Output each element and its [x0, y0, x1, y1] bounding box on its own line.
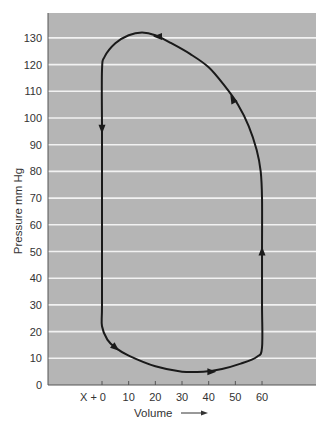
y-tick-label: 90 [30, 139, 42, 151]
right-arrow-icon [181, 411, 208, 416]
y-tick-label: 120 [24, 59, 42, 71]
x-tick-label: 30 [176, 391, 188, 403]
y-tick-label: 110 [24, 85, 42, 97]
y-tick-label: 100 [24, 112, 42, 124]
y-tick-label: 130 [24, 32, 42, 44]
y-tick-label: 40 [30, 272, 42, 284]
y-tick-label: 70 [30, 192, 42, 204]
y-tick-label: 80 [30, 165, 42, 177]
y-tick-labels: 0102030405060708090100110120130 [24, 32, 42, 391]
x-tick-label: 40 [203, 391, 215, 403]
y-tick-label: 60 [30, 219, 42, 231]
y-tick-label: 10 [30, 352, 42, 364]
y-tick-label: 50 [30, 246, 42, 258]
pressure-volume-chart: 0102030405060708090100110120130 X + 0102… [0, 0, 329, 425]
y-tick-label: 30 [30, 299, 42, 311]
y-tick-label: 20 [30, 326, 42, 338]
x-tick-label: 20 [149, 391, 161, 403]
x-tick-label: 60 [256, 391, 268, 403]
x-axis-title: Volume [134, 407, 172, 419]
y-tick-label: 0 [36, 379, 42, 391]
x-tick-label: X + 0 [80, 391, 106, 403]
plot-area [48, 13, 316, 385]
x-tick-label: 10 [123, 391, 135, 403]
x-tick-label: 50 [229, 391, 241, 403]
y-axis-title: Pressure mm Hg [12, 168, 24, 254]
